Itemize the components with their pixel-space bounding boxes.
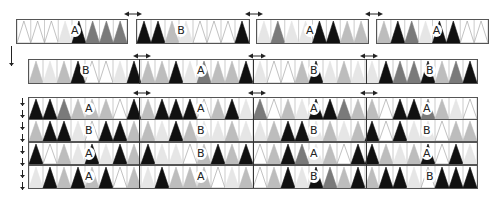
- triangle-white: [460, 21, 474, 43]
- vertical-arrow-icon: [20, 98, 25, 106]
- triangle-dark: [100, 21, 114, 43]
- triangle-mid: [435, 61, 449, 83]
- triangle-black: [391, 21, 405, 43]
- triangle-white: [45, 21, 59, 43]
- triangle-dark: [271, 21, 285, 43]
- triangle-mid: [225, 61, 239, 83]
- block-label-b: B: [175, 24, 187, 37]
- triangle-mid: [57, 61, 71, 83]
- triangle-mid: [337, 61, 351, 83]
- block-label-a: A: [69, 24, 81, 37]
- double-arrow-icon: [248, 53, 266, 59]
- triangle-light: [285, 21, 299, 43]
- vertical-arrow-icon: [20, 182, 25, 190]
- triangle-pattern: [137, 20, 249, 43]
- triangle-mid: [377, 21, 391, 43]
- triangle-dark: [86, 21, 100, 43]
- triangle-black: [235, 21, 249, 43]
- triangle-light: [257, 21, 271, 43]
- triangle-black: [379, 61, 393, 83]
- triangle-black: [239, 61, 253, 83]
- triangle-mid: [29, 61, 43, 83]
- triangle-white: [281, 61, 295, 83]
- section-divider: [253, 59, 254, 84]
- triangle-light: [323, 61, 337, 83]
- triangle-dark: [449, 61, 463, 83]
- vertical-arrow-icon: [20, 158, 25, 166]
- triangle-white: [474, 21, 488, 43]
- triangle-mid: [295, 61, 309, 83]
- double-arrow-icon: [360, 90, 378, 96]
- double-arrow-icon: [133, 90, 151, 96]
- triangle-black: [151, 21, 165, 43]
- triangle-white: [207, 21, 221, 43]
- triangle-light: [43, 61, 57, 83]
- triangle-mid: [340, 21, 354, 43]
- vertical-arrow-icon: [20, 146, 25, 154]
- block-label-b: B: [308, 64, 320, 77]
- triangle-white: [31, 21, 45, 43]
- triangle-black: [326, 21, 340, 43]
- vertical-arrow-icon: [20, 170, 25, 178]
- vertical-arrow-icon: [20, 122, 25, 130]
- triangle-white: [17, 21, 31, 43]
- vertical-arrow-icon: [20, 134, 25, 142]
- triangle-mid: [211, 61, 225, 83]
- triangle-black: [446, 21, 460, 43]
- triangle-light: [253, 61, 267, 83]
- row1-panel-2: [136, 19, 250, 44]
- triangle-mid: [141, 61, 155, 83]
- section-divider: [366, 59, 367, 84]
- triangle-white: [267, 61, 281, 83]
- double-arrow-icon: [360, 53, 378, 59]
- triangle-white: [221, 21, 235, 43]
- triangle-dark: [407, 61, 421, 83]
- double-arrow-icon: [248, 90, 266, 96]
- double-arrow-icon: [124, 11, 142, 17]
- triangle-black: [137, 21, 151, 43]
- triangle-light: [351, 61, 365, 83]
- stacked-rows-frame: [28, 97, 478, 189]
- triangle-light: [113, 61, 127, 83]
- triangle-mid: [155, 61, 169, 83]
- triangle-white: [193, 21, 207, 43]
- triangle-mid: [354, 21, 368, 43]
- block-label-b: B: [80, 64, 92, 77]
- block-label-a: A: [304, 24, 316, 37]
- triangle-dark: [113, 21, 127, 43]
- double-arrow-icon: [365, 11, 383, 17]
- triangle-black: [463, 61, 477, 83]
- triangle-dark: [393, 61, 407, 83]
- double-arrow-icon: [133, 53, 151, 59]
- triangle-white: [99, 61, 113, 83]
- vertical-arrow-icon: [20, 110, 25, 118]
- triangle-dark: [405, 21, 419, 43]
- section-divider: [139, 59, 140, 84]
- block-label-b: B: [424, 64, 436, 77]
- triangle-light: [365, 61, 379, 83]
- block-label-a: A: [195, 64, 207, 77]
- double-arrow-icon: [245, 11, 263, 17]
- triangle-black: [169, 61, 183, 83]
- vertical-arrow-icon: [9, 46, 14, 66]
